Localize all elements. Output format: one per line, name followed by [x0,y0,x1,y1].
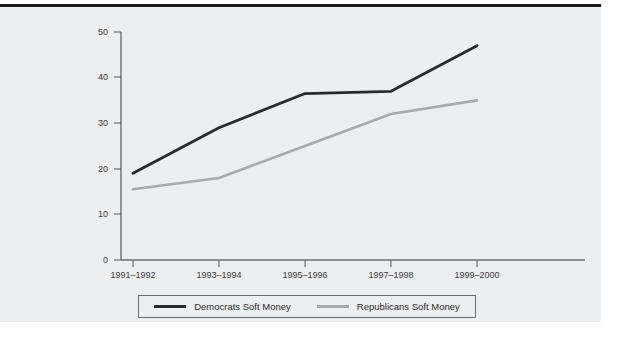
y-tick-label: 10 [98,209,108,219]
legend-label: Democrats Soft Money [194,301,291,312]
legend-line-swatch-icon [317,305,349,308]
legend-line-swatch-icon [154,305,186,308]
y-tick-label: 50 [98,27,108,37]
x-tick-label: 1991–1992 [110,270,155,280]
legend-entry-republicans: Republicans Soft Money [317,301,460,312]
y-tick-label: 0 [103,255,108,265]
x-tick-label: 1995–1996 [282,270,327,280]
x-tick-label: 1999–2000 [454,270,499,280]
x-tick-label: 1993–1994 [196,270,241,280]
x-tick-marks [133,260,477,267]
legend-entry-democrats: Democrats Soft Money [154,301,291,312]
chart-figure: 50 40 30 20 10 0 1991–1992 1993–1994 199… [0,0,617,344]
y-tick-label: 40 [98,72,108,82]
chart-legend: Democrats Soft Money Republicans Soft Mo… [138,295,476,318]
line-chart-plot: 50 40 30 20 10 0 1991–1992 1993–1994 199… [0,7,601,325]
legend-label: Republicans Soft Money [357,301,460,312]
y-tick-label: 30 [98,118,108,128]
x-tick-label: 1997–1998 [368,270,413,280]
chart-panel: 50 40 30 20 10 0 1991–1992 1993–1994 199… [0,4,601,322]
y-tick-marks [114,32,121,260]
y-tick-label: 20 [98,164,108,174]
